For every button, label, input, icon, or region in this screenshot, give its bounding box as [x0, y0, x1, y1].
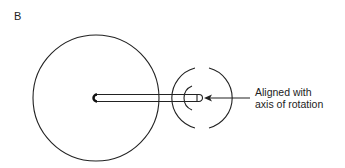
- pointer-arrow: [204, 95, 250, 102]
- large-circle: [33, 35, 159, 161]
- annotation-label: Aligned with axis of rotation: [255, 86, 323, 110]
- diagram-canvas: B Aligned with axis of rotation: [0, 0, 345, 168]
- annotation-line-1: Aligned with: [255, 86, 323, 98]
- rod: [94, 95, 203, 102]
- annotation-line-2: axis of rotation: [255, 98, 323, 110]
- diagram-drawing: [0, 0, 345, 168]
